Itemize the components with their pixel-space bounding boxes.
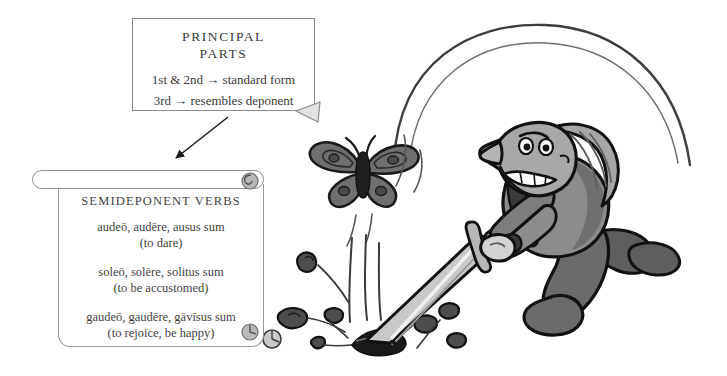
callout-tail-fold	[294, 100, 328, 126]
illustration-canvas: PRINCIPAL PARTS 1st & 2nd → standard for…	[0, 0, 727, 376]
callout-to-scroll-arrow	[0, 0, 727, 376]
